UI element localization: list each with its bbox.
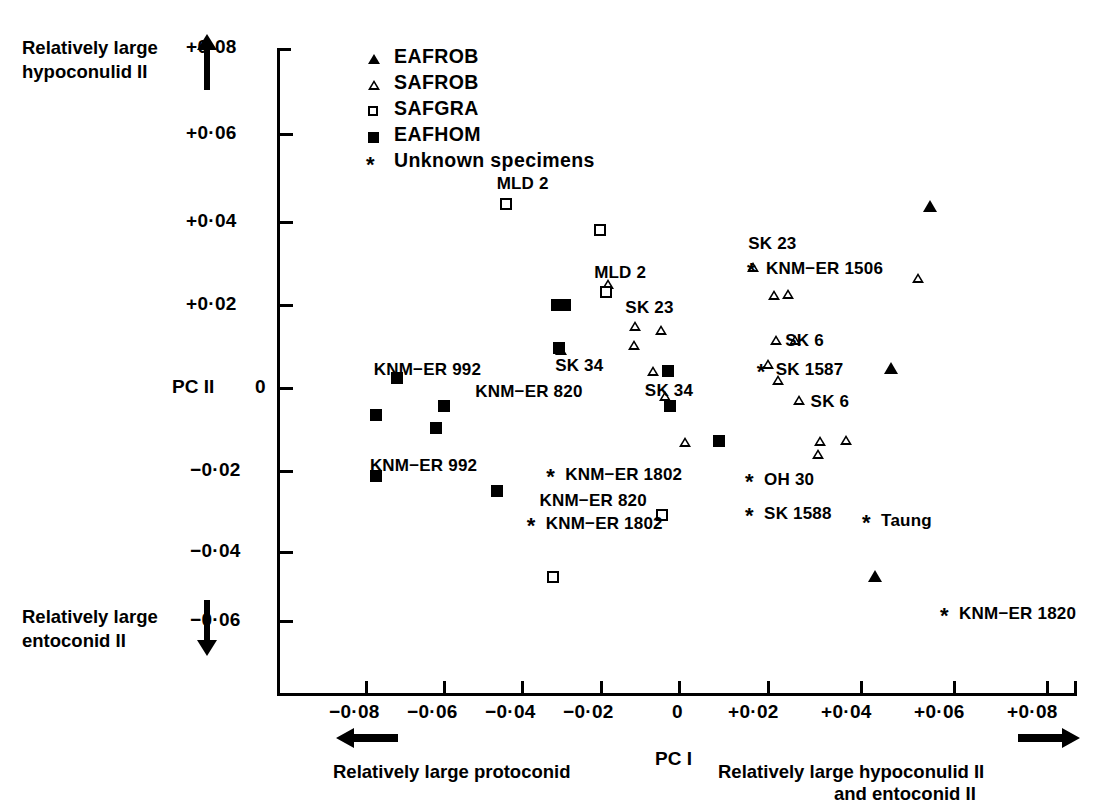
data-point-safrob (840, 435, 852, 445)
specimen-label: KNM−ER 1506 (766, 259, 883, 278)
data-point-eafhom (553, 342, 565, 354)
plot-area: ********KNM−ER 1802KNM−ER 1802KNM−ER 150… (0, 0, 1113, 801)
specimen-label: SK 1588 (764, 504, 832, 523)
data-point-unknown-specimens: * (527, 515, 536, 537)
specimen-label: KNM−ER 820 (475, 382, 582, 401)
specimen-label: KNM−ER 992 (374, 360, 481, 379)
data-point-safgra (594, 224, 606, 236)
specimen-label: SK 23 (748, 234, 796, 253)
data-point-eafhom (664, 400, 676, 412)
data-point-unknown-specimens: * (862, 512, 871, 534)
data-point-eafhom (662, 365, 674, 377)
specimen-label: OH 30 (764, 470, 814, 489)
data-point-eafhom (430, 422, 442, 434)
data-point-eafrob (923, 200, 937, 212)
data-point-unknown-specimens: * (745, 505, 754, 527)
specimen-label: SK 34 (645, 381, 693, 400)
data-point-safrob (629, 321, 641, 331)
data-point-safrob (655, 325, 667, 335)
data-point-unknown-specimens: * (747, 260, 756, 282)
data-point-safrob (647, 366, 659, 376)
data-point-safrob (912, 273, 924, 283)
specimen-label: KNM−ER 820 (540, 491, 647, 510)
specimen-label: SK 1587 (776, 360, 844, 379)
data-point-eafrob (884, 362, 898, 374)
data-point-unknown-specimens: * (757, 361, 766, 383)
specimen-label: MLD 2 (497, 174, 549, 193)
data-point-safgra (547, 571, 559, 583)
data-point-safrob (770, 335, 782, 345)
data-point-eafhom (438, 400, 450, 412)
data-point-safgra (500, 198, 512, 210)
data-point-unknown-specimens: * (745, 471, 754, 493)
specimen-label: MLD 2 (594, 263, 646, 282)
specimen-label: KNM−ER 1820 (959, 604, 1076, 623)
specimen-label: SK 23 (625, 298, 673, 317)
data-point-safrob (782, 289, 794, 299)
data-point-eafrob (868, 570, 882, 582)
specimen-label: KNM−ER 1802 (565, 465, 682, 484)
data-point-safrob (628, 340, 640, 350)
data-point-safrob (793, 395, 805, 405)
specimen-label: SK 6 (811, 392, 850, 411)
data-point-unknown-specimens: * (940, 605, 949, 627)
data-point-safrob (812, 449, 824, 459)
data-point-eafhom (713, 435, 725, 447)
data-point-safrob (679, 437, 691, 447)
specimen-label: SK 34 (555, 356, 603, 375)
data-point-safgra (600, 286, 612, 298)
data-point-unknown-specimens: * (546, 466, 555, 488)
specimen-label: Taung (881, 511, 932, 530)
specimen-label: SK 6 (785, 331, 824, 350)
data-point-eafhom (559, 299, 571, 311)
specimen-label: KNM−ER 1802 (546, 514, 663, 533)
data-point-safrob (768, 290, 780, 300)
pca-scatter-figure: +0·08 +0·06 +0·04 +0·02 0 −0·02 −0·04 −0… (0, 0, 1113, 801)
data-point-eafhom (370, 409, 382, 421)
data-point-eafhom (491, 485, 503, 497)
specimen-label: KNM−ER 992 (370, 456, 477, 475)
data-point-safrob (814, 436, 826, 446)
